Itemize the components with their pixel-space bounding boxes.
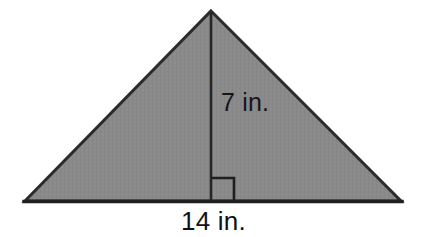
triangle-shape: [25, 11, 401, 201]
base-label: 14 in.: [181, 208, 246, 234]
height-label: 7 in.: [221, 90, 269, 115]
geometry-canvas: [0, 0, 427, 237]
triangle-figure: 7 in. 14 in.: [0, 0, 427, 237]
